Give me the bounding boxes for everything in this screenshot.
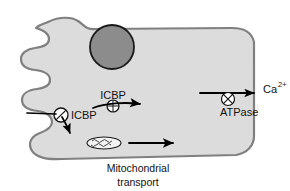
plasma-membrane	[21, 18, 254, 159]
mitochondrion-body	[87, 137, 121, 149]
cell-transport-diagram: ICBP ICBP Mitochondrial transport	[0, 0, 290, 191]
icbp-membrane-label: ICBP	[71, 109, 97, 121]
cytosolic-carrier-symbol	[107, 100, 119, 112]
calcium-charge-text: 2+	[278, 80, 287, 89]
calcium-label: Ca 2+	[263, 80, 287, 95]
mitochondrial-transport-label-line2: transport	[117, 176, 159, 188]
calcium-symbol-text: Ca	[263, 83, 278, 95]
nucleus	[90, 25, 134, 69]
membrane-channel-symbol	[54, 108, 68, 122]
diagram-canvas: ICBP ICBP Mitochondrial transport	[0, 0, 290, 191]
icbp-cytosol-label: ICBP	[100, 89, 126, 101]
atpase-pump-symbol	[222, 93, 235, 106]
mitochondrial-transport-label-line1: Mitochondrial	[107, 162, 169, 174]
atpase-label: ATPase	[220, 106, 258, 118]
cell-body	[21, 18, 254, 159]
nucleus-circle	[90, 25, 134, 69]
mitochondrion	[87, 137, 121, 149]
